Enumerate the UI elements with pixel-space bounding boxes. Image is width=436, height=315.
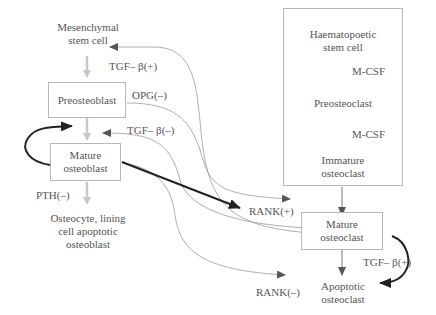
- preosteoclast-label: Preosteoclast: [305, 97, 381, 110]
- opg-minus-label: OPG(–): [132, 89, 167, 102]
- mature-osteoblast-label: Mature osteoblast: [64, 149, 108, 175]
- osteocyte-label: Osteocyte, lining cell apoptotic osteobl…: [42, 212, 134, 251]
- preosteoblast-box: Preosteoblast: [48, 82, 126, 118]
- mature-osteoblast-box: Mature osteoblast: [50, 143, 121, 181]
- mcsf-label-1: M-CSF: [352, 65, 385, 78]
- immature-osteoclast-label: Immature osteoclast: [310, 154, 376, 180]
- haematopoetic-stem-cell-label: Haematopoetic stem cell: [295, 28, 391, 54]
- mature-osteoclast-box: Mature osteoclast: [301, 212, 383, 250]
- mature-osteoclast-label: Mature osteoclast: [320, 218, 363, 244]
- tgf-beta-minus-label: TGF– β(–): [127, 124, 174, 137]
- rank-plus-label: RANK(+): [249, 205, 294, 218]
- rank-minus-label: RANK(–): [256, 286, 300, 299]
- mcsf-label-2: M-CSF: [352, 128, 385, 141]
- thin-signal-curves: [103, 47, 312, 275]
- tgf-beta-plus-label-top: TGF– β(+): [109, 60, 157, 73]
- preosteoblast-label: Preosteoblast: [58, 94, 117, 107]
- mesenchymal-stem-cell-label: Mesenchymal stem cell: [52, 21, 124, 47]
- apoptotic-osteoclast-label: Apoptotic osteoclast: [310, 280, 376, 306]
- pth-minus-label: PTH(–): [36, 189, 70, 202]
- tgf-beta-plus-label-right: TGF– β(+): [363, 256, 411, 269]
